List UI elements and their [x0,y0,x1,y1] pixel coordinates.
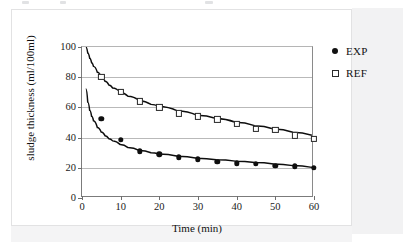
y-tick-label: 20 [50,163,76,173]
data-point-ref [234,121,240,127]
open-square-icon-glyph [332,70,339,77]
data-point-ref [253,125,259,131]
fit-curves [82,47,312,196]
x-tick-label: 40 [224,202,250,212]
page-margin-shade-right [352,8,403,234]
scan-speck [22,1,29,4]
filled-circle-icon-glyph [332,48,338,54]
data-point-ref [292,132,298,138]
data-point-ref [118,89,124,95]
data-point-exp [311,165,316,170]
x-tick-label: 30 [185,202,211,212]
x-tick-label: 10 [108,202,134,212]
data-point-ref [195,113,201,119]
data-point-ref [98,74,104,80]
x-tick-label: 60 [301,202,327,212]
y-tick-label: 80 [50,72,76,82]
x-tick [159,196,160,200]
data-point-ref [311,136,317,142]
scan-speck [60,1,66,4]
y-tick-label: 100 [50,42,76,52]
y-tick-label: 60 [50,102,76,112]
open-square-icon [329,70,341,77]
legend: EXPREF [329,43,389,87]
y-tick-label: 40 [50,133,76,143]
figure-page: sludge thickness (ml/100ml) 020406080100… [0,0,403,242]
data-point-ref [137,98,143,104]
x-tick-label: 0 [69,202,95,212]
data-point-ref [176,110,182,116]
legend-item-ref: REF [329,65,389,81]
x-tick [82,196,83,200]
scan-speck [205,1,213,4]
data-point-ref [272,127,278,133]
x-tick [121,196,122,200]
legend-item-exp: EXP [329,43,389,59]
data-point-ref [156,104,162,110]
legend-label: REF [346,67,367,79]
x-tick [275,196,276,200]
x-tick [314,196,315,200]
legend-label: EXP [346,45,368,57]
x-tick-label: 20 [146,202,172,212]
filled-circle-icon [329,48,341,54]
x-tick [198,196,199,200]
y-axis-title: sludge thickness (ml/100ml) [24,18,36,178]
x-axis-title: Time (min) [81,222,313,234]
x-tick-label: 50 [262,202,288,212]
x-tick [237,196,238,200]
plot-area: 020406080100 0102030405060 [81,46,313,197]
data-point-ref [214,116,220,122]
figure-frame: sludge thickness (ml/100ml) 020406080100… [11,9,352,226]
